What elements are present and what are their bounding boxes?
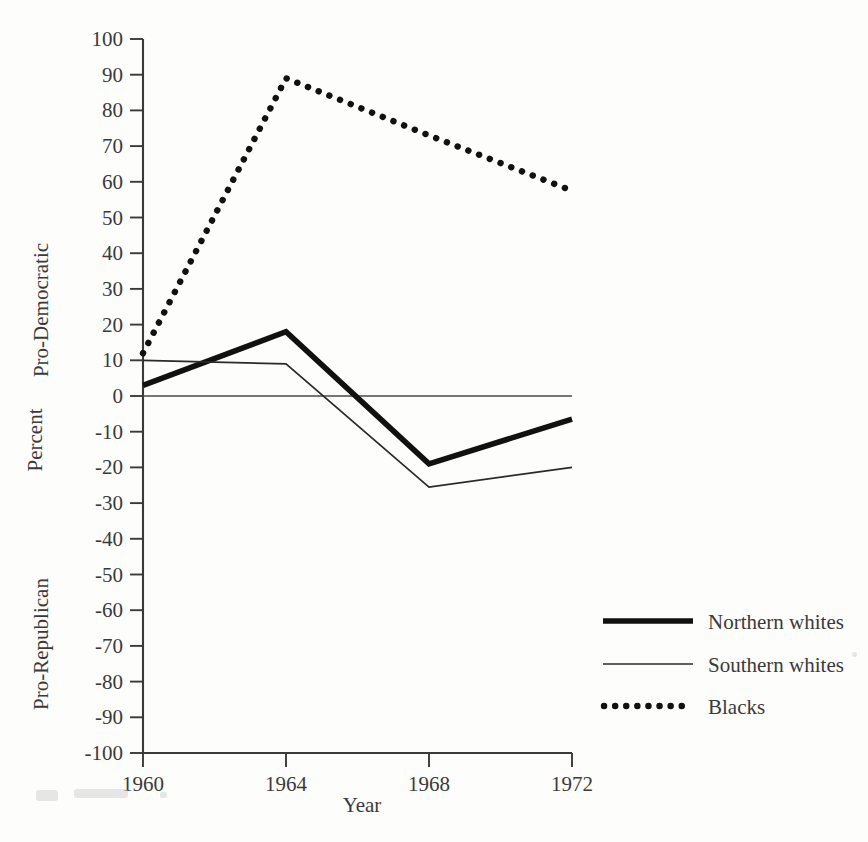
legend-label-1: Southern whites	[708, 653, 844, 677]
y-axis-title: Percent	[23, 408, 47, 471]
x-tick-label: 1964	[265, 772, 308, 796]
y-tick-label: 20	[102, 313, 123, 337]
y-tick-label: 60	[102, 170, 123, 194]
y-tick-label: 80	[102, 98, 123, 122]
y-tick-label: 50	[102, 206, 123, 230]
x-tick-label: 1972	[551, 772, 593, 796]
y-tick-label: -100	[85, 741, 124, 765]
y-tick-label: 0	[113, 384, 124, 408]
y-tick-marks	[130, 39, 143, 753]
y-tick-label: -60	[95, 598, 123, 622]
line-chart: 1009080706050403020100-10-20-30-40-50-60…	[0, 0, 868, 842]
y-tick-label: 30	[102, 277, 123, 301]
y-tick-label: -40	[95, 527, 123, 551]
y-tick-label: -30	[95, 491, 123, 515]
y-tick-label: -70	[95, 634, 123, 658]
y-axis-upper-label: Pro-Democratic	[29, 243, 53, 377]
legend-label-2: Blacks	[708, 695, 765, 719]
y-tick-label: -20	[95, 455, 123, 479]
y-tick-label: 10	[102, 348, 123, 372]
y-tick-label: 100	[92, 27, 124, 51]
y-tick-label: 90	[102, 63, 123, 87]
y-tick-label: -50	[95, 563, 123, 587]
y-tick-label: -10	[95, 420, 123, 444]
y-tick-label: -90	[95, 705, 123, 729]
y-tick-label: -80	[95, 670, 123, 694]
x-tick-label: 1960	[122, 772, 164, 796]
x-axis-title: Year	[343, 793, 382, 817]
legend-label-0: Northern whites	[708, 610, 844, 634]
y-tick-label: 40	[102, 241, 123, 265]
x-tick-label: 1968	[408, 772, 450, 796]
y-axis-lower-label: Pro-Republican	[29, 578, 53, 710]
chart-figure: 1009080706050403020100-10-20-30-40-50-60…	[0, 0, 868, 842]
y-tick-label: 70	[102, 134, 123, 158]
